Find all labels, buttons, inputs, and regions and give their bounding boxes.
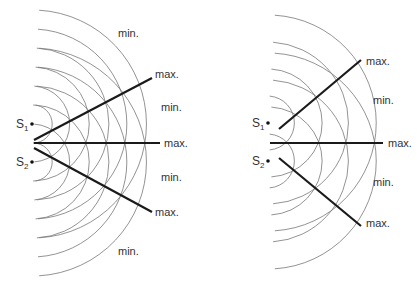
wavefront-arc <box>38 67 127 257</box>
wavefront-arc <box>36 105 90 219</box>
wavefront-arc <box>275 15 376 231</box>
right-max-lines <box>270 60 383 226</box>
source-label: S1 <box>252 116 265 132</box>
left-sources: S1S2 <box>16 117 34 171</box>
min-label: min. <box>118 245 139 257</box>
wavefront-arc <box>273 80 348 242</box>
max-label: max. <box>388 137 412 149</box>
min-label: min. <box>161 171 182 183</box>
left-max-lines <box>34 78 160 212</box>
source-point <box>266 159 270 163</box>
min-label: min. <box>373 176 394 188</box>
source-point <box>266 121 270 125</box>
max-label: max. <box>155 68 179 80</box>
right-sources: S1S2 <box>252 116 270 170</box>
source-point <box>30 122 34 126</box>
wavefront-arc <box>37 48 109 200</box>
wavefront-arc <box>39 10 146 238</box>
min-label: min. <box>373 94 394 106</box>
max-label: max. <box>164 137 188 149</box>
right-interference-panel: S1S2 max.min.max.min.max. <box>252 15 412 269</box>
wavefront-arc <box>39 48 146 276</box>
min-label: min. <box>118 27 139 39</box>
interference-diagram: S1S2 min.max.min.max.min.max.min. S1S2 m… <box>0 0 417 287</box>
max-label: max. <box>366 55 390 67</box>
max-line-lower <box>279 158 361 226</box>
max-line-upper <box>34 78 152 140</box>
max-label: max. <box>366 217 390 229</box>
wavefront-arc <box>270 96 295 150</box>
left-interference-panel: S1S2 min.max.min.max.min.max.min. <box>16 10 188 276</box>
max-line-lower <box>34 148 152 212</box>
source-point <box>30 160 34 164</box>
max-label: max. <box>155 206 179 218</box>
wavefront-arc <box>275 53 376 269</box>
source-label: S1 <box>16 117 29 133</box>
wavefront-arc <box>37 86 109 238</box>
wavefront-arc <box>273 42 348 204</box>
source-label: S2 <box>252 154 265 170</box>
source-label: S2 <box>16 155 29 171</box>
min-label: min. <box>161 101 182 113</box>
